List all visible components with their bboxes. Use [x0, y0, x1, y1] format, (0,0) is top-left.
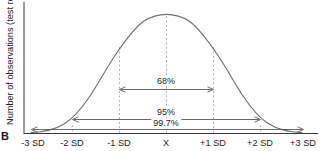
annotation-99-7-percent: 99.7% — [151, 118, 181, 128]
annotation-95-percent: 95% — [155, 107, 177, 117]
x-tick-minus3sd: -3 SD — [21, 138, 45, 148]
x-tick-plus3sd: +3 SD — [290, 138, 316, 148]
x-tick-plus2sd: +2 SD — [247, 138, 273, 148]
panel-label-b: B — [1, 130, 9, 142]
x-tick-minus1sd: -1 SD — [107, 138, 131, 148]
x-tick-plus1sd: +1 SD — [200, 138, 226, 148]
y-axis-title: Number of observations (test results) — [5, 0, 15, 125]
x-tick-mean: X — [163, 138, 169, 148]
annotation-68-percent: 68% — [155, 76, 177, 86]
normal-distribution-figure: B Number of observations (test results) … — [0, 0, 320, 151]
x-tick-minus2sd: -2 SD — [60, 138, 84, 148]
